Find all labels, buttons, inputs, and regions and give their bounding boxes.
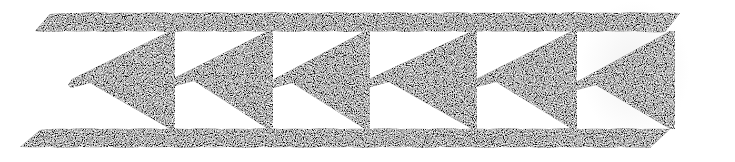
triangle-4 bbox=[367, 31, 477, 129]
triangle-2 bbox=[172, 31, 273, 129]
bottom-band bbox=[20, 128, 670, 148]
triangle-3 bbox=[270, 31, 370, 129]
triangle-5 bbox=[474, 31, 577, 129]
triangle-border-pattern bbox=[0, 0, 735, 162]
triangle-6 bbox=[574, 31, 675, 129]
triangle-1 bbox=[68, 31, 175, 129]
top-band bbox=[35, 12, 680, 32]
